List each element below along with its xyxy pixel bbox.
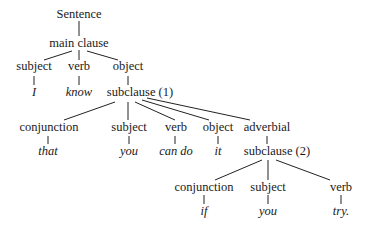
- edge-subclause1-conjunction: [64, 102, 115, 120]
- node-subject: subject: [16, 59, 51, 73]
- node-verb: verb: [68, 59, 90, 73]
- node-subclause-1: subclause (1): [107, 85, 173, 99]
- leaf-if: if: [201, 204, 208, 218]
- leaf-you-1: you: [120, 144, 138, 158]
- node-subclause-2: subclause (2): [244, 144, 310, 158]
- node-adverbial: adverbial: [244, 120, 291, 134]
- node-conjunction-2: conjunction: [174, 180, 233, 194]
- node-subject-2: subject: [250, 180, 285, 194]
- leaf-that: that: [38, 144, 57, 158]
- node-verb-2: verb: [330, 180, 352, 194]
- node-sentence: Sentence: [56, 7, 101, 21]
- leaf-can-do: can do: [159, 144, 193, 158]
- leaf-I: I: [32, 85, 36, 99]
- node-verb-1: verb: [165, 120, 187, 134]
- leaf-try: try.: [333, 204, 349, 218]
- node-object: object: [113, 59, 144, 73]
- syntax-tree-diagram: Sentence main clause subject verb object…: [0, 0, 368, 229]
- leaf-know: know: [66, 85, 92, 99]
- tree-edges: [0, 0, 368, 229]
- node-main-clause: main clause: [49, 36, 108, 50]
- leaf-you-2: you: [259, 204, 277, 218]
- edge-subclause2-conjunction: [215, 160, 262, 180]
- edge-subclause1-verb: [135, 102, 175, 120]
- node-subject-1: subject: [111, 120, 146, 134]
- node-conjunction-1: conjunction: [19, 120, 78, 134]
- node-object-1: object: [203, 120, 234, 134]
- edge-subclause2-verb: [276, 160, 330, 180]
- leaf-it: it: [215, 144, 222, 158]
